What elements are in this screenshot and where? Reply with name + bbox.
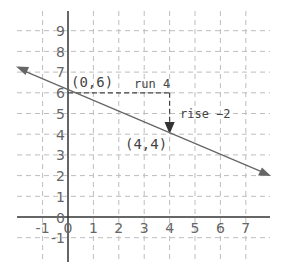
y-tick: 3 xyxy=(56,147,65,163)
y-tick: 5 xyxy=(56,106,65,122)
x-tick: 4 xyxy=(165,220,174,236)
x-tick: 5 xyxy=(191,220,200,236)
x-tick: 6 xyxy=(216,220,225,236)
y-tick: 1 xyxy=(56,189,65,205)
x-tick: 2 xyxy=(114,220,123,236)
y-tick: 9 xyxy=(56,23,65,39)
y-tick: 7 xyxy=(56,64,65,80)
y-tick: 4 xyxy=(56,127,65,143)
run-label: run 4 xyxy=(134,77,170,91)
x-tick-labels: -1 0 1 2 3 4 5 6 7 xyxy=(36,220,251,236)
y-tick: 2 xyxy=(56,168,65,184)
x-tick: 7 xyxy=(241,220,250,236)
left-arrowhead-icon xyxy=(16,67,29,76)
x-tick: 1 xyxy=(89,220,98,236)
y-tick: 8 xyxy=(56,44,65,60)
coordinate-plane: -1 0 1 2 3 4 5 6 7 8 9 -1 0 1 2 3 4 5 6 … xyxy=(0,0,283,269)
rise-label: rise −2 xyxy=(180,107,231,121)
x-tick: -1 xyxy=(36,220,50,236)
x-tick: 3 xyxy=(140,220,149,236)
right-arrowhead-icon xyxy=(258,168,271,177)
point-label-0-6: (0,6) xyxy=(71,74,113,90)
x-tick: 0 xyxy=(64,220,73,236)
point-label-4-4: (4,4) xyxy=(125,136,167,152)
